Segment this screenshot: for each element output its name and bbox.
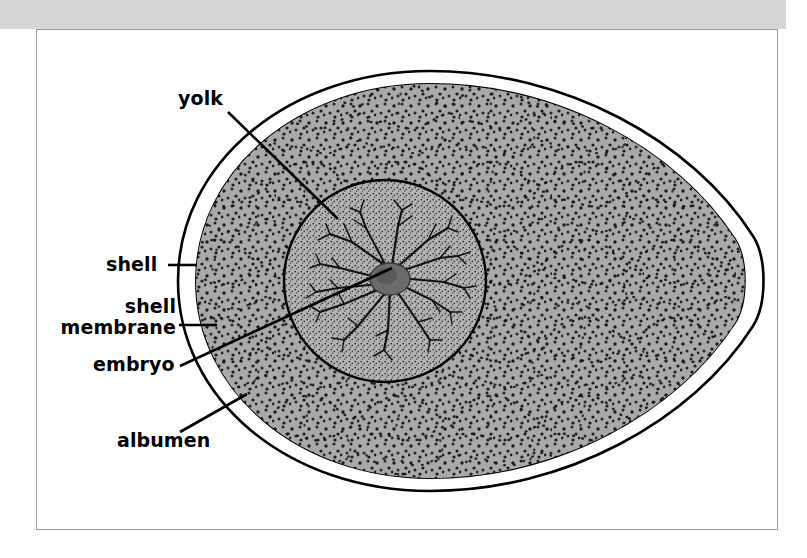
label-shell-membrane-line2: membrane xyxy=(58,317,176,338)
label-shell: shell xyxy=(106,254,157,275)
label-yolk: yolk xyxy=(178,88,223,109)
label-shell-membrane-line1: shell xyxy=(58,296,176,317)
figure-page: yolk shell shell membrane embryo albumen xyxy=(0,0,807,558)
egg-diagram-svg xyxy=(0,0,807,558)
label-albumen: albumen xyxy=(117,430,210,451)
label-embryo: embryo xyxy=(93,354,175,375)
label-shell-membrane: shell membrane xyxy=(58,296,176,338)
egg-diagram: yolk shell shell membrane embryo albumen xyxy=(0,0,807,558)
